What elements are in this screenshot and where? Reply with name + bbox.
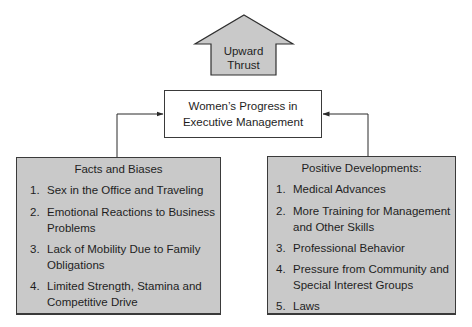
list-item: 3. Lack of Mobility Due to Family Obliga… [30, 241, 200, 273]
item-text: Sex in the Office and Traveling [47, 182, 203, 198]
item-number: 4. [30, 278, 47, 310]
left-connector-arrow [117, 114, 163, 157]
list-item: 1. Sex in the Office and Traveling [30, 182, 203, 198]
list-item: 5. Laws [276, 298, 320, 314]
list-item: 1. Medical Advances [276, 181, 386, 197]
list-item: 3. Professional Behavior [276, 240, 405, 256]
item-number: 2. [30, 204, 47, 236]
item-number: 1. [30, 182, 47, 198]
facts-and-biases-title: Facts and Biases [17, 162, 220, 176]
list-item: 4. Limited Strength, Stamina and Competi… [30, 278, 202, 310]
item-text: Limited Strength, Stamina and Competitiv… [47, 278, 202, 310]
item-number: 4. [276, 261, 293, 293]
item-number: 2. [276, 203, 293, 235]
arrow-label-line2: Thrust [211, 58, 276, 72]
item-number: 3. [30, 241, 47, 273]
item-number: 1. [276, 181, 293, 197]
item-text: Pressure from Community and Special Inte… [293, 261, 449, 293]
right-connector-arrow [323, 114, 368, 156]
item-number: 3. [276, 240, 293, 256]
item-number: 5. [276, 298, 293, 314]
positive-developments-title: Positive Developments: [268, 161, 455, 175]
item-text: More Training for Management and Other S… [293, 203, 450, 235]
center-line1: Women’s Progress in [189, 98, 298, 114]
list-item: 2. More Training for Management and Othe… [276, 203, 450, 235]
item-text: Professional Behavior [293, 240, 405, 256]
upward-thrust-label: Upward Thrust [211, 44, 276, 72]
central-concept-box: Women’s Progress in Executive Management [164, 90, 322, 138]
list-item: 4. Pressure from Community and Special I… [276, 261, 449, 293]
facts-and-biases-box: Facts and Biases 1. Sex in the Office an… [16, 157, 221, 315]
diagram-canvas: Upward Thrust Women’s Progress in Execut… [0, 0, 472, 327]
item-text: Laws [293, 298, 320, 314]
item-text: Emotional Reactions to Business Problems [47, 204, 215, 236]
center-line2: Executive Management [183, 114, 303, 130]
positive-developments-box: Positive Developments: 1. Medical Advanc… [267, 156, 456, 315]
item-text: Medical Advances [293, 181, 386, 197]
list-item: 2. Emotional Reactions to Business Probl… [30, 204, 215, 236]
item-text: Lack of Mobility Due to Family Obligatio… [47, 241, 200, 273]
arrow-label-line1: Upward [211, 44, 276, 58]
